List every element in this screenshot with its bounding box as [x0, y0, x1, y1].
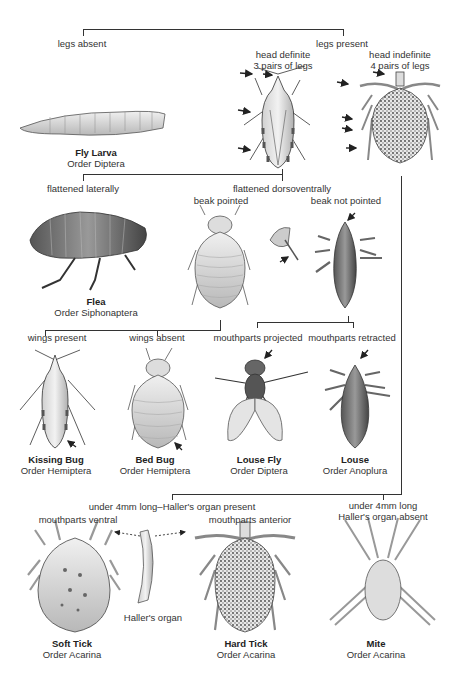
organism-soft-tick: Soft Tick Order Acarina	[43, 638, 102, 660]
louse-key-illustration	[315, 213, 382, 308]
bracket-mouthparts-left-tick	[257, 322, 258, 328]
hallers-organ-label: Haller's organ	[124, 612, 182, 623]
bracket-mouthparts-center-tick	[348, 316, 349, 322]
branch-beak-pointed: beak pointed	[194, 195, 248, 206]
branch-mouthparts-retracted: mouthparts retracted	[308, 332, 396, 343]
bracket-hallers-left-tick	[172, 494, 173, 500]
organism-name: Louse Fly	[230, 454, 288, 465]
branch-mouthparts-anterior: mouthparts anterior	[209, 514, 291, 525]
branch-mouthparts-ventral: mouthparts ventral	[39, 514, 118, 525]
organism-name: Bed Bug	[120, 454, 191, 465]
branch-hallers-absent: under 4mm long Haller's organ absent	[338, 500, 427, 522]
kissing-bug-key-illustration	[244, 66, 310, 168]
tick-key-illustration	[360, 72, 440, 163]
organism-order: Order Hemiptera	[120, 465, 191, 476]
bracket-mouthparts-right-tick	[353, 322, 354, 328]
mite-illustration	[330, 518, 435, 625]
branch-wings-present: wings present	[28, 332, 87, 343]
organism-order: Order Hemiptera	[21, 465, 92, 476]
organism-order: Order Diptera	[67, 158, 125, 169]
organism-hard-tick: Hard Tick Order Acarina	[217, 638, 276, 660]
bracket-flattened-left-tick	[83, 174, 84, 181]
bracket-wings-right-tick	[220, 320, 221, 330]
organism-fly-larva: Fly Larva Order Diptera	[67, 147, 125, 169]
organism-bed-bug: Bed Bug Order Hemiptera	[120, 454, 191, 476]
organism-order: Order Acarina	[217, 649, 276, 660]
bracket-hallers	[172, 494, 402, 495]
branch-head-indefinite: head indefinite 4 pairs of legs	[369, 49, 431, 71]
organism-order: Order Acarina	[43, 649, 102, 660]
organism-louse-fly: Louse Fly Order Diptera	[230, 454, 288, 476]
branch-beak-not-pointed: beak not pointed	[311, 195, 381, 206]
organism-order: Order Siphonaptera	[54, 307, 137, 318]
hallers-organ-illustration	[115, 530, 185, 603]
acarina-vertical-connector	[401, 176, 402, 494]
branch-flattened-laterally: flattened laterally	[47, 183, 119, 194]
head-indefinite-line1: head indefinite	[369, 49, 431, 60]
bracket-legs-right-tick	[343, 29, 344, 36]
head-definite-line2: 3 pairs of legs	[253, 60, 312, 71]
organism-name: Hard Tick	[217, 638, 276, 649]
organism-name: Kissing Bug	[21, 454, 92, 465]
bracket-wings	[45, 330, 221, 331]
bed-bug-illustration	[128, 348, 188, 450]
branch-wings-absent: wings absent	[129, 332, 184, 343]
bracket-legs	[83, 29, 344, 30]
organism-flea: Flea Order Siphonaptera	[54, 296, 137, 318]
organism-kissing-bug: Kissing Bug Order Hemiptera	[21, 454, 92, 476]
hallers-absent-line1: under 4mm long	[338, 500, 427, 511]
branch-head-definite: head definite 3 pairs of legs	[253, 49, 312, 71]
louse-illustration	[325, 350, 390, 448]
organism-order: Order Diptera	[230, 465, 288, 476]
hard-tick-illustration	[195, 522, 295, 632]
bed-bug-key-illustration	[188, 205, 250, 308]
kissing-bug-illustration	[20, 350, 95, 448]
organism-name: Louse	[323, 454, 387, 465]
louse-fly-illustration	[215, 350, 308, 441]
organism-name: Fly Larva	[67, 147, 125, 158]
head-definite-line1: head definite	[253, 49, 312, 60]
branch-flattened-dorsoventrally: flattened dorsoventrally	[233, 183, 331, 194]
organism-name: Flea	[54, 296, 137, 307]
head-indefinite-line2: 4 pairs of legs	[369, 60, 431, 71]
branch-mouthparts-projected: mouthparts projected	[213, 332, 302, 343]
bracket-mouthparts	[257, 322, 354, 323]
hallers-absent-line2: Haller's organ absent	[338, 511, 427, 522]
bracket-flattened-right-tick	[282, 169, 283, 181]
organism-name: Mite	[347, 638, 406, 649]
bracket-legs-left-tick	[83, 29, 84, 36]
organism-louse: Louse Order Anoplura	[323, 454, 387, 476]
organism-mite: Mite Order Acarina	[347, 638, 406, 660]
beak-detail-illustration	[270, 228, 298, 263]
organism-order: Order Anoplura	[323, 465, 387, 476]
branch-legs-absent: legs absent	[58, 38, 107, 49]
organism-order: Order Acarina	[347, 649, 406, 660]
soft-tick-illustration	[28, 520, 120, 632]
flea-illustration	[30, 212, 146, 290]
organism-name: Soft Tick	[43, 638, 102, 649]
branch-legs-present: legs present	[316, 38, 368, 49]
bracket-flattened	[83, 174, 283, 175]
fly-larva-illustration	[20, 111, 165, 135]
branch-hallers-present: under 4mm long–Haller's organ present	[89, 501, 256, 512]
leg-pointer-arrows	[238, 72, 384, 150]
